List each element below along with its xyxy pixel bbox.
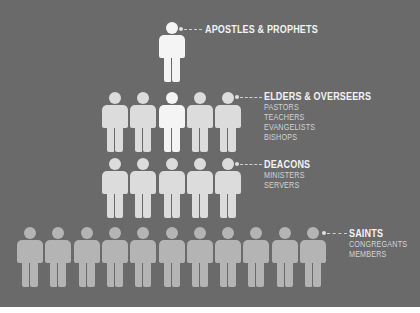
person-icon xyxy=(130,158,156,218)
person-icon xyxy=(215,227,241,287)
person-icon xyxy=(215,92,241,152)
person-icon xyxy=(102,92,128,152)
person-icon xyxy=(17,227,43,287)
tier-label-saints: SAINTS CONGREGANTS MEMBERS xyxy=(349,227,420,259)
connector-dot xyxy=(322,231,326,235)
person-icon xyxy=(159,227,185,287)
tier-title: ELDERS & OVERSEERS xyxy=(264,90,371,102)
tier-subtitle: SERVERS xyxy=(264,180,309,190)
person-icon xyxy=(187,227,213,287)
person-icon xyxy=(159,92,185,152)
tier-title: APOSTLES & PROPHETS xyxy=(205,23,318,35)
person-icon xyxy=(159,22,185,82)
tier-label-elders: ELDERS & OVERSEERS PASTORS TEACHERS EVAN… xyxy=(264,90,395,142)
person-icon xyxy=(102,158,128,218)
tier-subtitle: MEMBERS xyxy=(349,249,407,259)
tier-subtitle: BISHOPS xyxy=(264,132,369,142)
person-icon xyxy=(215,158,241,218)
connector-line xyxy=(240,97,262,98)
person-icon xyxy=(130,92,156,152)
tier-title: SAINTS xyxy=(349,227,409,239)
person-icon xyxy=(187,92,213,152)
tier-label-apostles: APOSTLES & PROPHETS xyxy=(205,23,343,35)
connector-dot xyxy=(235,162,239,166)
person-icon xyxy=(74,227,100,287)
person-icon xyxy=(272,227,298,287)
connector-line xyxy=(184,29,202,30)
person-icon xyxy=(243,227,269,287)
tier-subtitle: MINISTERS xyxy=(264,170,309,180)
tier-subtitle: PASTORS xyxy=(264,102,369,112)
connector-dot xyxy=(235,95,239,99)
connector-line xyxy=(240,164,262,165)
person-icon xyxy=(187,158,213,218)
person-icon xyxy=(159,158,185,218)
person-icon xyxy=(300,227,326,287)
tier-subtitle: TEACHERS xyxy=(264,112,369,122)
connector-dot xyxy=(179,27,183,31)
diagram-panel: APOSTLES & PROPHETS ELDERS & OVERSEERS P… xyxy=(0,0,420,307)
tier-subtitle: CONGREGANTS xyxy=(349,239,407,249)
person-icon xyxy=(130,227,156,287)
person-icon xyxy=(102,227,128,287)
tier-title: DEACONS xyxy=(264,158,310,170)
tier-subtitle: EVANGELISTS xyxy=(264,122,369,132)
tier-label-deacons: DEACONS MINISTERS SERVERS xyxy=(264,158,320,190)
connector-line xyxy=(327,233,347,234)
person-icon xyxy=(45,227,71,287)
